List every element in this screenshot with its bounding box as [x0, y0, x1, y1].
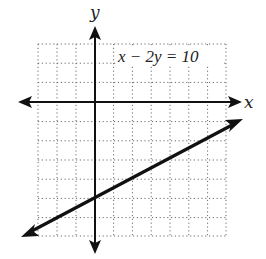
line-upper-arrow-icon: [225, 119, 243, 132]
equation-label: x − 2y = 10: [117, 47, 199, 66]
coordinate-graph: y x x − 2y = 10: [0, 0, 266, 259]
y-axis: [89, 26, 101, 254]
line-lower-arrow-icon: [21, 224, 39, 237]
x-axis-label: x: [244, 92, 254, 112]
y-axis-label: y: [89, 2, 100, 22]
x-axis: [18, 96, 242, 108]
grid: [38, 44, 226, 236]
